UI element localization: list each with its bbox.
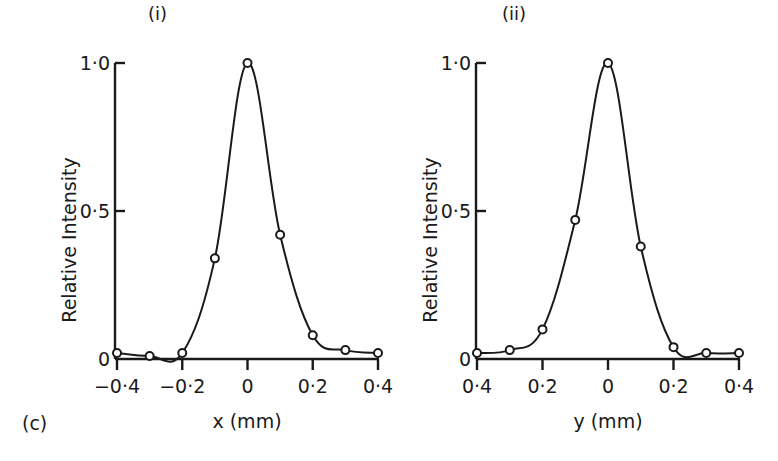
data-point: [539, 325, 547, 333]
data-point: [178, 349, 186, 357]
x-axis-label: x (mm): [212, 410, 281, 432]
data-point: [473, 349, 481, 357]
figure: (i) −0·4−0·200·20·400·51·0 x (mm) Relati…: [0, 0, 778, 461]
x-tick-label: −0·2: [159, 375, 205, 397]
x-axis-label: y (mm): [573, 410, 642, 432]
data-point: [374, 349, 382, 357]
data-point: [211, 254, 219, 262]
data-point: [506, 346, 514, 354]
panel-label: (ii): [502, 3, 526, 24]
data-point: [341, 346, 349, 354]
x-tick-label: 0·2: [527, 375, 557, 397]
y-tick-label: 1·0: [80, 52, 110, 74]
y-tick-label: 0: [459, 348, 471, 370]
x-tick-label: 0·4: [462, 375, 492, 397]
data-point: [309, 331, 317, 339]
x-tick-label: 0·4: [724, 375, 754, 397]
data-point: [146, 352, 154, 360]
x-tick-label: 0: [241, 375, 253, 397]
data-point: [244, 59, 252, 67]
x-tick-label: 0: [602, 375, 614, 397]
panel-label: (i): [148, 3, 167, 24]
data-point: [702, 349, 710, 357]
figure-label: (c): [22, 412, 47, 434]
tick-labels: 0·40·200·20·400·51·0: [441, 52, 754, 397]
x-tick-label: 0·2: [658, 375, 688, 397]
data-point: [571, 216, 579, 224]
x-tick-label: 0·4: [363, 375, 393, 397]
y-tick-label: 0: [98, 348, 110, 370]
data-point: [637, 243, 645, 251]
x-tick-label: −0·4: [94, 375, 140, 397]
chart-panel-i: (i) −0·4−0·200·20·400·51·0 x (mm) Relati…: [58, 3, 393, 432]
chart-panel-ii: (ii) 0·40·200·20·400·51·0 y (mm) Relativ…: [419, 3, 754, 432]
data-points: [113, 59, 382, 360]
y-tick-label: 0·5: [80, 200, 110, 222]
y-axis-label: Relative Intensity: [419, 157, 441, 322]
y-tick-label: 1·0: [441, 52, 471, 74]
data-points: [473, 59, 743, 357]
data-point: [604, 59, 612, 67]
y-axis-label: Relative Intensity: [58, 157, 80, 322]
y-tick-label: 0·5: [441, 200, 471, 222]
axes: [115, 63, 379, 370]
fit-curve: [117, 63, 378, 362]
x-tick-label: 0·2: [298, 375, 328, 397]
data-point: [670, 343, 678, 351]
data-point: [276, 231, 284, 239]
data-point: [735, 349, 743, 357]
data-point: [113, 349, 121, 357]
fit-curve: [477, 63, 739, 357]
axes: [476, 63, 740, 370]
